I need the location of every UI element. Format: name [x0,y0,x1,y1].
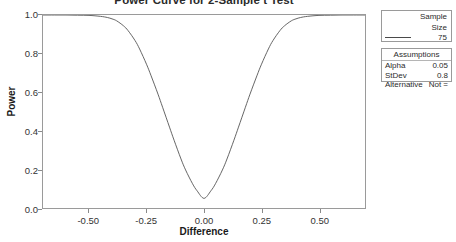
legend-assumptions: Assumptions Alpha0.05StDev0.8Alternative… [381,48,452,82]
plot-area [42,14,366,209]
legend-sample-size: Sample Size 75 [381,10,452,42]
power-curve-svg [43,15,365,208]
y-tick-label: 0.8 [4,48,38,59]
y-tick-label: 0.2 [4,165,38,176]
y-tick-label: 1.0 [4,9,38,20]
legend-entry: 75 [382,32,451,43]
series-line-75 [43,15,365,198]
x-tick-label: 0.50 [290,215,350,226]
y-axis-title: Power [6,74,17,130]
assumption-key: Alternative [385,80,423,90]
assumption-row: Alpha0.05 [382,61,451,71]
assumptions-rows: Alpha0.05StDev0.8AlternativeNot = [382,61,451,90]
assumption-value: Not = [429,80,448,90]
power-curve-chart: Power Curve for 2-Sample t Test 0.00.20.… [0,0,456,242]
y-tick-label: 0.0 [4,204,38,215]
x-tick-label: -0.25 [116,215,176,226]
assumption-row: AlternativeNot = [382,80,451,90]
x-axis-ticks: -0.50-0.250.000.250.50 [42,209,366,227]
assumption-key: StDev [385,71,407,81]
x-tick-mark [146,209,147,213]
line-swatch-icon [385,37,411,38]
x-tick-label: 0.00 [174,215,234,226]
x-axis-title: Difference [42,226,366,237]
x-tick-mark [262,209,263,213]
x-tick-mark [204,209,205,213]
page-title: Power Curve for 2-Sample t Test [42,0,366,6]
legend-value: 75 [438,32,447,43]
assumption-key: Alpha [385,61,405,71]
assumption-row: StDev0.8 [382,71,451,81]
assumption-value: 0.05 [432,61,448,71]
x-tick-mark [320,209,321,213]
x-tick-label: 0.25 [232,215,292,226]
legend-header-line1: Sample [382,11,451,22]
x-tick-label: -0.50 [58,215,118,226]
x-tick-mark [88,209,89,213]
legend-header-line2: Size [382,22,451,33]
assumptions-header: Assumptions [382,49,451,61]
assumption-value: 0.8 [437,71,448,81]
